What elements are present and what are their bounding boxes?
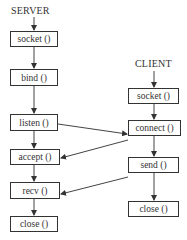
client-connect-box: connect () bbox=[128, 120, 181, 136]
server-socket-box: socket () bbox=[10, 31, 58, 47]
client-close-box: close () bbox=[128, 201, 179, 217]
client-title: CLIENT bbox=[135, 58, 172, 69]
server-title: SERVER bbox=[11, 5, 50, 16]
server-bind-box: bind () bbox=[10, 69, 58, 86]
server-recv-box: recv () bbox=[10, 182, 60, 199]
server-listen-box: listen () bbox=[10, 114, 58, 131]
client-socket-box: socket () bbox=[128, 88, 179, 104]
server-close-box: close () bbox=[10, 216, 58, 232]
server-accept-box: accept () bbox=[10, 149, 60, 165]
client-send-box: send () bbox=[128, 157, 179, 173]
